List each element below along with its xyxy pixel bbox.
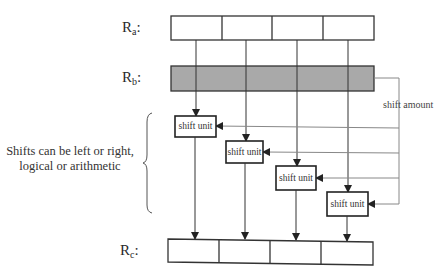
register-rb	[171, 66, 374, 91]
label-ra: Ra:	[122, 20, 141, 37]
label-ra-colon: :	[136, 19, 140, 35]
label-rb: Rb:	[122, 70, 141, 87]
label-rc: Rc:	[120, 243, 139, 260]
label-rc-colon: :	[134, 242, 138, 258]
label-rb-base: R	[122, 69, 132, 85]
data-lines	[196, 40, 348, 192]
shift-note: Shifts can be left or right, logical or …	[2, 144, 138, 174]
shift-note-line1: Shifts can be left or right,	[2, 144, 138, 159]
shift-amount-label: shift amount	[383, 99, 433, 110]
shift-unit-boxes	[175, 116, 368, 216]
shift-note-line2: logical or arithmetic	[2, 159, 138, 174]
register-rc	[168, 239, 373, 265]
register-ra	[171, 16, 374, 40]
label-ra-base: R	[122, 19, 132, 35]
diagram-canvas	[0, 0, 441, 278]
curly-brace	[143, 113, 152, 213]
label-rc-base: R	[120, 242, 130, 258]
label-rb-colon: :	[137, 69, 141, 85]
